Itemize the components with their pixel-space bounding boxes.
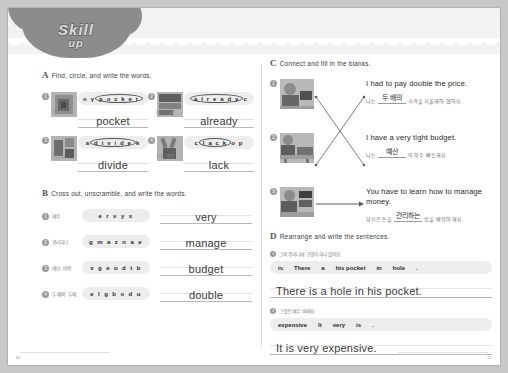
answer-text: already — [200, 115, 237, 127]
item-number: 1 — [42, 93, 49, 100]
logo-line-1: Skill — [36, 22, 116, 37]
answer-line[interactable]: divide — [78, 156, 148, 172]
word-puzzle: o y p o c k e t — [78, 92, 148, 105]
answer-text: manage — [186, 237, 227, 249]
korean-blank[interactable]: 두 배의 — [378, 92, 406, 104]
korean-sentence: 나는 두 배의 가격을 지불해야 했어요. — [366, 92, 494, 104]
connector-arrow — [316, 201, 364, 207]
word-tile[interactable]: in — [376, 265, 381, 271]
row-korean-label: 4 두 배의, 두배 — [42, 290, 82, 298]
item-number: 2 — [270, 308, 276, 314]
section-b-title: Cross out, unscramble, and write the wor… — [51, 190, 186, 197]
row-korean-label: 2 관리하다 — [42, 238, 82, 246]
answer-line[interactable]: very — [160, 207, 252, 224]
answer-text: double — [189, 289, 223, 301]
item-number: 2 — [148, 93, 155, 100]
word-puzzle: a d i v i d e k — [78, 136, 148, 149]
sentence-block: I have a very tight budget. 나는 예산 이 아주 빠… — [366, 133, 494, 158]
answer-text: very — [195, 211, 217, 223]
scrambled-letters: e r v y x — [82, 209, 150, 222]
item-number: 2 — [270, 134, 277, 141]
section-d-heading: DRearrange and write the sentences. — [270, 231, 492, 241]
puzzle-circled-word: d i v i d e — [90, 138, 136, 147]
korean-text: 예산, 비용 — [52, 264, 71, 271]
item-korean: 부족, 결핍 — [148, 153, 182, 159]
korean-suffix: 가격을 지불해야 했어요. — [408, 97, 462, 104]
word-tile[interactable]: . — [416, 265, 418, 271]
section-a-letter: A — [42, 70, 49, 80]
answer-line[interactable]: There is a hole in his pocket. — [270, 279, 492, 298]
word-tile[interactable]: There — [294, 265, 310, 271]
korean-prefix: 나는 — [366, 151, 376, 158]
puzzle-suffix: k — [136, 140, 140, 146]
row-korean-label: 1 매우 — [42, 212, 82, 220]
korean-prefix: 당신은 돈을 — [366, 215, 392, 222]
section-a-heading: AFind, circle, and write the words. — [42, 70, 252, 80]
item-number: 1 — [270, 251, 276, 257]
item-number: 3 — [270, 188, 277, 195]
english-sentence: I had to pay double the price. — [366, 79, 494, 89]
item-right: o y p o c k e t pocket — [78, 92, 148, 128]
section-b-row: 1 매우 e r v y x very — [42, 207, 252, 224]
answer-line[interactable]: double — [160, 285, 252, 302]
word-tile[interactable]: hole — [393, 265, 405, 271]
word-tile[interactable]: his pocket — [336, 265, 366, 271]
word-tiles[interactable]: is There a his pocket in hole . — [270, 261, 492, 274]
word-tile[interactable]: It — [318, 322, 322, 328]
answer-line[interactable]: pocket — [78, 112, 148, 128]
korean-text: 두 배의, 두배 — [52, 290, 76, 297]
answer-text: It is very expensive. — [276, 342, 377, 354]
sentence-block: You have to learn how to manage money. 당… — [366, 187, 494, 222]
row-korean-label: 3 예산, 비용 — [42, 264, 82, 272]
section-d-item: 1 그의 주머니에 구멍이 하나 있어요. is There a his poc… — [270, 250, 492, 298]
korean-text: 그의 주머니에 구멍이 하나 있어요. — [279, 250, 342, 257]
section-d: DRearrange and write the sentences. 1 그의… — [270, 231, 492, 355]
puzzle-suffix: c — [243, 96, 247, 102]
word-tiles[interactable]: expensive It very is . — [270, 318, 492, 331]
korean-sentence: 당신은 돈을 관리하는 법을 배워야 해요. — [366, 210, 494, 222]
korean-blank[interactable]: 관리하는 — [394, 210, 422, 222]
section-a-title: Find, circle, and write the words. — [52, 72, 152, 79]
section-a-item: 1 주머니 o y p o c k e t — [42, 92, 148, 117]
answer-line[interactable]: budget — [160, 259, 252, 276]
answer-line[interactable]: manage — [160, 233, 252, 250]
section-d-item: 2 그것은 매우 비싸요. expensive It very is . It … — [270, 307, 492, 355]
puzzle-circled-word: a l r e a d y — [190, 94, 243, 103]
word-puzzle: c l a c k o p — [184, 136, 254, 149]
section-b-letter: B — [42, 188, 48, 198]
english-sentence: You have to learn how to manage money. — [366, 187, 494, 207]
korean-text: 매우 — [52, 212, 60, 219]
korean-sentence: 나는 예산 이 아주 빠듯해요. — [366, 146, 494, 158]
puzzle-suffix: o p — [231, 140, 243, 146]
worksheet-page: Skill up AFind, circle, and write the wo… — [8, 8, 500, 365]
item-body: 주머니 — [51, 92, 77, 117]
sentence-block: I had to pay double the price. 나는 두 배의 가… — [366, 79, 494, 104]
answer-line[interactable]: already — [184, 112, 254, 128]
puzzle-prefix: o y — [83, 96, 95, 102]
answer-line[interactable]: lack — [184, 156, 254, 172]
section-b: BCross out, unscramble, and write the wo… — [42, 188, 252, 302]
illustration-manage-money — [280, 187, 314, 217]
word-tile[interactable]: expensive — [278, 322, 307, 328]
item-number: 1 — [42, 213, 49, 220]
footer-rule-right — [398, 352, 488, 353]
item-number: 3 — [42, 137, 49, 144]
section-d-letter: D — [270, 231, 277, 241]
word-tile[interactable]: . — [372, 322, 374, 328]
korean-hint: 2 그것은 매우 비싸요. — [270, 307, 492, 314]
korean-text: 관리하다 — [52, 238, 68, 245]
korean-blank[interactable]: 예산 — [378, 146, 406, 158]
scrambled-letters: x g e u d t b — [82, 261, 150, 274]
column-divider — [261, 64, 262, 346]
word-tile[interactable]: is — [356, 322, 361, 328]
scrambled-letters: g m a z n a e — [82, 235, 150, 248]
word-tile[interactable]: a — [321, 265, 324, 271]
item-korean: 주머니 — [42, 109, 76, 115]
section-c-title: Connect and fill in the blanks. — [280, 60, 371, 67]
korean-hint: 1 그의 주머니에 구멍이 하나 있어요. — [270, 250, 492, 257]
section-c-heading: CConnect and fill in the blanks. — [270, 58, 492, 68]
item-korean: 이미, 벌써 — [148, 109, 182, 115]
word-tile[interactable]: is — [278, 265, 283, 271]
section-a-grid: 1 주머니 o y p o c k e t — [42, 92, 254, 180]
word-tile[interactable]: very — [333, 322, 345, 328]
